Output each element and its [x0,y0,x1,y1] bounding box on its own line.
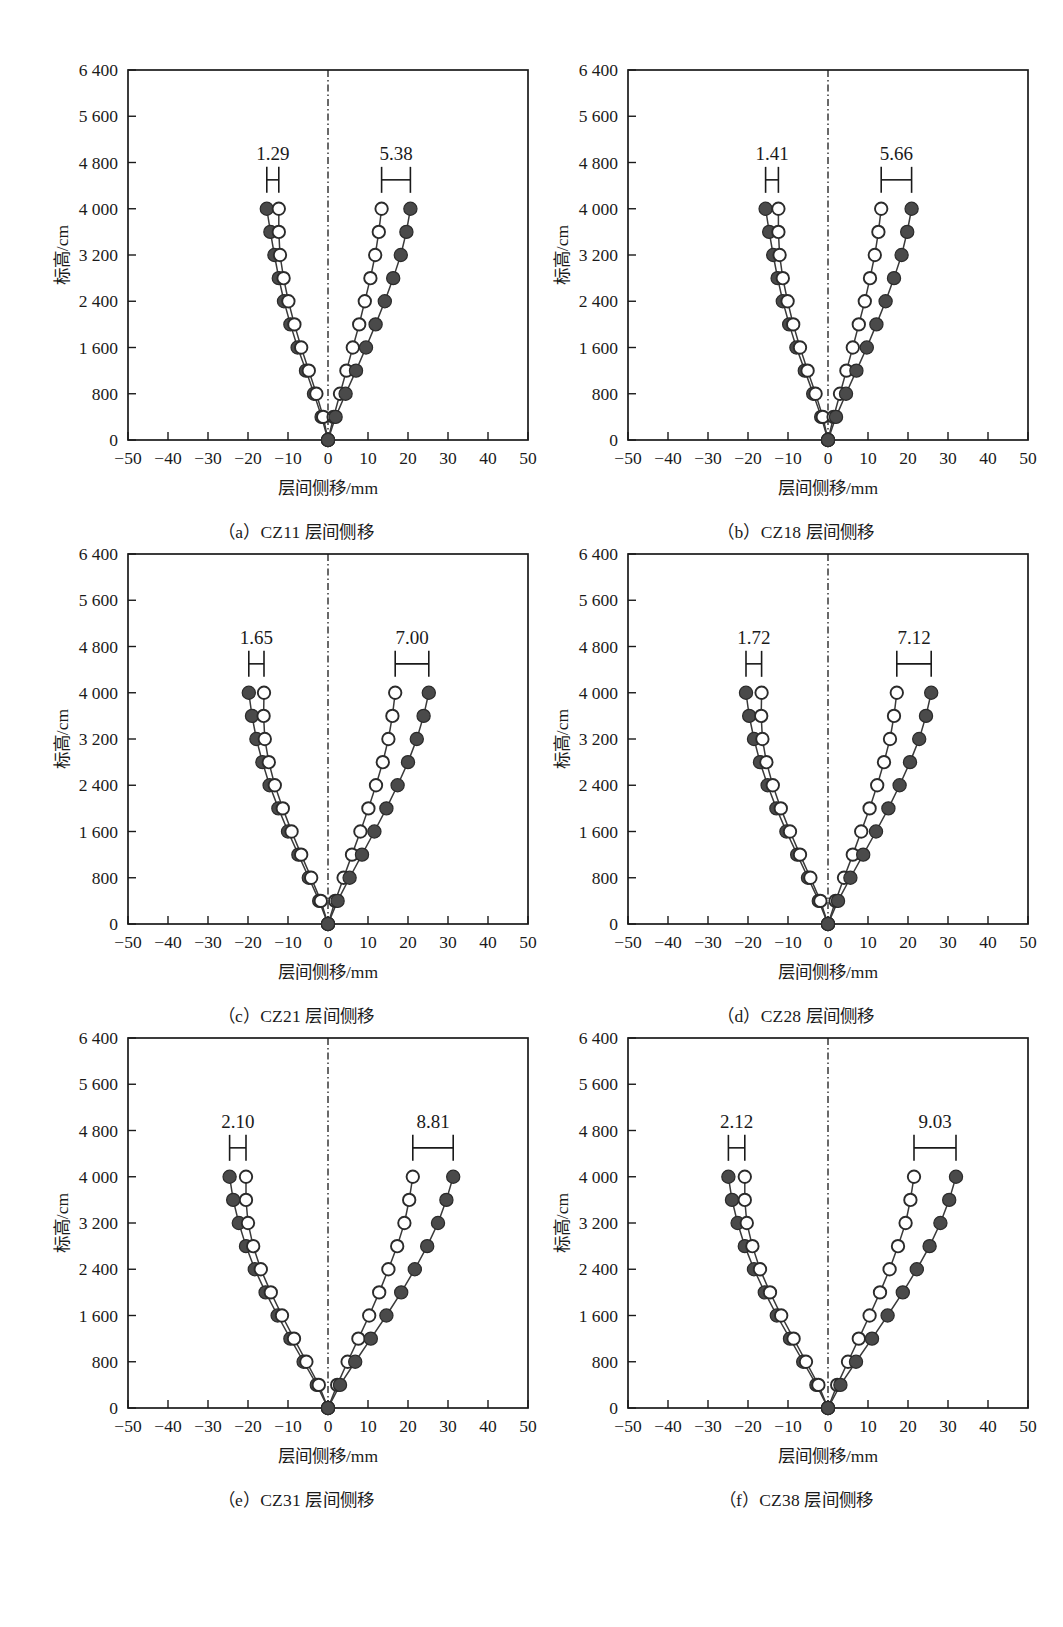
data-point-hollow [814,895,826,907]
y-axis-title: 标高/cm [552,1192,572,1253]
data-point-hollow [377,756,389,768]
data-point-hollow [755,710,767,722]
data-point-hollow [288,1332,300,1344]
y-axis-tick-label: 2 400 [579,775,619,795]
span-value-label: 9.03 [918,1111,951,1132]
figure-root: 08001 6002 4003 2004 0004 8005 6006 400−… [0,0,1063,1627]
x-axis-tick-label: 10 [359,932,377,952]
data-point-filled [417,709,430,722]
x-axis-tick-label: 30 [939,448,957,468]
data-point-filled [860,341,873,354]
y-axis-tick-label: 4 800 [79,153,119,173]
data-point-filled [329,410,342,423]
data-point-hollow [908,1171,920,1183]
y-axis-tick-label: 1 600 [79,338,119,358]
x-axis-tick-label: 20 [899,1416,917,1436]
series-line-filled-negative [728,1177,828,1408]
x-axis-tick-label: −30 [194,932,222,952]
series-line-hollow-negative [745,1177,828,1408]
data-point-filled [331,894,344,907]
y-axis-tick-label: 800 [92,868,119,888]
x-axis-tick-label: 40 [979,448,997,468]
chart-panel-a: 08001 6002 4003 2004 0004 8005 6006 400−… [46,48,546,568]
data-point-hollow [389,687,401,699]
series-line-filled-positive [328,1177,453,1408]
data-point-hollow [871,779,883,791]
data-point-filled [913,732,926,745]
data-point-hollow [398,1217,410,1229]
chart-panel-f: 08001 6002 4003 2004 0004 8005 6006 400−… [546,1016,1046,1536]
chart-svg-a: 08001 6002 4003 2004 0004 8005 6006 400−… [46,48,546,518]
span-value-label: 8.81 [416,1111,449,1132]
data-point-filled [949,1170,962,1183]
data-point-hollow [874,1286,886,1298]
data-point-hollow [794,341,806,353]
x-axis-title: 层间侧移/mm [778,962,878,982]
data-point-hollow [883,1263,895,1275]
y-axis-tick-label: 1 600 [579,338,619,358]
x-axis-tick-label: −30 [194,448,222,468]
x-axis-tick-label: −40 [654,1416,682,1436]
plot-area-c: 08001 6002 4003 2004 0004 8005 6006 400−… [46,532,546,1002]
x-axis-tick-label: 40 [479,932,497,952]
x-axis-tick-label: −50 [114,932,142,952]
data-point-hollow [257,710,269,722]
data-point-filled [903,756,916,769]
series-line-hollow-negative [246,1177,328,1408]
data-point-hollow [295,341,307,353]
data-point-hollow [853,318,865,330]
data-point-filled [380,802,393,815]
data-point-filled [369,318,382,331]
chart-svg-f: 08001 6002 4003 2004 0004 8005 6006 400−… [546,1016,1046,1486]
span-annotation: 1.65 [240,627,273,677]
y-axis-tick-label: 1 600 [79,822,119,842]
data-point-hollow [354,825,366,837]
data-point-hollow [315,895,327,907]
span-value-label: 1.41 [755,143,788,164]
x-axis-title: 层间侧移/mm [778,1446,878,1466]
plot-area-d: 08001 6002 4003 2004 0004 8005 6006 400−… [546,532,1046,1002]
x-axis-tick-label: 0 [824,1416,833,1436]
y-axis-tick-label: 800 [592,1352,619,1372]
x-axis-tick-label: −50 [114,1416,142,1436]
data-point-filled [857,848,870,861]
data-point-hollow [303,364,315,376]
x-axis-title: 层间侧移/mm [278,478,378,498]
x-axis-tick-label: 0 [324,1416,333,1436]
data-point-filled [896,1286,909,1299]
data-point-hollow [313,1379,325,1391]
data-point-hollow [403,1194,415,1206]
x-axis-title: 层间侧移/mm [778,478,878,498]
chart-svg-e: 08001 6002 4003 2004 0004 8005 6006 400−… [46,1016,546,1486]
data-point-filled [349,364,362,377]
x-axis-tick-label: 10 [859,1416,877,1436]
x-axis-tick-label: 10 [359,448,377,468]
data-point-hollow [407,1171,419,1183]
y-axis-tick-label: 2 400 [79,1259,119,1279]
data-point-filled [725,1193,738,1206]
data-point-filled [943,1193,956,1206]
chart-svg-d: 08001 6002 4003 2004 0004 8005 6006 400−… [546,532,1046,1002]
x-axis-tick-label: 50 [519,1416,537,1436]
data-point-hollow [240,1171,252,1183]
x-axis-tick-label: −50 [614,1416,642,1436]
data-point-hollow [273,203,285,215]
plot-area-b: 08001 6002 4003 2004 0004 8005 6006 400−… [546,48,1046,518]
data-point-hollow [855,825,867,837]
span-annotation: 1.41 [755,143,788,193]
data-point-hollow [760,756,772,768]
data-point-hollow [872,226,884,238]
y-axis-title: 标高/cm [552,224,572,285]
data-point-filled [321,917,334,930]
data-point-filled [821,917,834,930]
x-axis-title: 层间侧移/mm [278,962,378,982]
data-point-hollow [359,295,371,307]
data-point-filled [821,1401,834,1414]
x-axis-tick-label: −10 [774,932,802,952]
span-annotation: 8.81 [413,1111,453,1161]
y-axis-tick-label: 4 000 [579,199,619,219]
data-point-filled [821,433,834,446]
x-axis-tick-label: 50 [1019,1416,1037,1436]
data-point-filled [368,825,381,838]
y-axis-tick-label: 3 200 [579,729,619,749]
